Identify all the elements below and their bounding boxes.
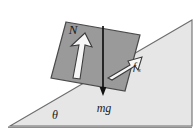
normal-force-label: N [68, 22, 79, 37]
static-friction-subscript: s [138, 66, 141, 74]
weight-label: mg [97, 101, 112, 115]
incline-angle-label: θ [52, 108, 58, 122]
diagram-canvas: N mg f s θ [0, 0, 194, 135]
block [51, 22, 140, 91]
physics-diagram-figure: N mg f s θ [0, 0, 194, 135]
